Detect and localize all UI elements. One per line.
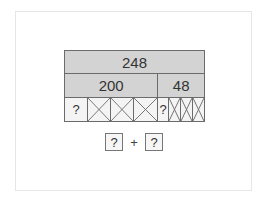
cross-icon	[193, 98, 204, 121]
total-row: 248	[64, 50, 205, 74]
answer-box-1[interactable]: ?	[105, 133, 123, 151]
unknown-hundreds-cell: ?	[64, 97, 88, 122]
cross-icon	[169, 98, 180, 121]
crossed-unit-cell	[133, 97, 158, 122]
units-row: ? ?	[64, 97, 205, 122]
cross-icon	[134, 98, 157, 121]
plus-sign: +	[129, 135, 139, 150]
crossed-unit-cell	[87, 97, 111, 122]
answer-box-2[interactable]: ?	[145, 133, 163, 151]
bar-model: 248 200 48 ? ?	[64, 50, 205, 122]
cross-icon	[181, 98, 192, 121]
cross-icon	[88, 98, 110, 121]
crossed-unit-cell	[110, 97, 134, 122]
total-cell: 248	[64, 50, 205, 74]
crossed-unit-cell	[192, 97, 205, 122]
part-cell-48: 48	[157, 73, 205, 98]
part-cell-200: 200	[64, 73, 158, 98]
parts-row: 200 48	[64, 73, 205, 98]
answer-expression: ? + ?	[0, 133, 268, 151]
cross-icon	[111, 98, 133, 121]
